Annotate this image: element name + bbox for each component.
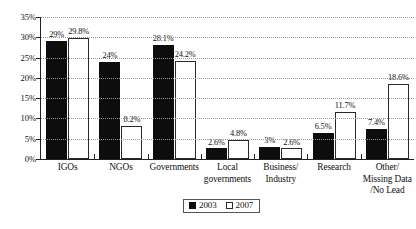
- y-axis-tick-mark: [36, 159, 40, 160]
- legend-item-2003: 2003: [189, 201, 217, 210]
- y-axis-tick-label: 20%: [21, 74, 36, 83]
- gridline: [41, 17, 414, 18]
- bar-value-label: 6.5%: [315, 123, 332, 131]
- x-axis-label-line: Missing Data: [349, 174, 416, 186]
- x-axis-label-line: Other/: [349, 162, 416, 174]
- x-axis-group-separator: [201, 154, 202, 159]
- bar-value-label: 29%: [49, 31, 64, 39]
- bar-2007-5: [281, 148, 302, 159]
- legend-label-2003: 2003: [199, 201, 217, 210]
- y-axis-tick-mark: [36, 139, 40, 140]
- x-axis-label-line: /No Lead: [349, 185, 416, 197]
- y-axis-tick-label: 30%: [21, 33, 36, 42]
- y-axis-tick-mark: [36, 118, 40, 119]
- x-axis-group-separator: [94, 154, 95, 159]
- chart-legend: 2003 2007: [183, 199, 260, 213]
- bar-value-label: 2.6%: [283, 139, 300, 147]
- legend-swatch-2003-icon: [189, 202, 196, 209]
- legend-item-2007: 2007: [226, 201, 254, 210]
- y-axis-tick-mark: [36, 98, 40, 99]
- bar-2003-6: [313, 133, 334, 159]
- y-axis-tick-label: 5%: [25, 134, 36, 143]
- gridline: [41, 118, 414, 119]
- bar-2007-7: [388, 84, 409, 159]
- grouped-bar-chart: 0%5%10%15%20%25%30%35% 29%29.8%24%8.2%28…: [0, 0, 416, 229]
- bar-value-label: 2.6%: [208, 139, 225, 147]
- bar-value-label: 4.8%: [230, 130, 247, 138]
- bar-value-label: 11.7%: [335, 102, 356, 110]
- y-axis-tick-label: 10%: [21, 114, 36, 123]
- y-axis-tick-mark: [36, 78, 40, 79]
- bar-value-label: 24%: [102, 52, 117, 60]
- bar-2007-3: [175, 61, 196, 159]
- x-axis-label-7: Other/Missing Data/No Lead: [349, 162, 416, 197]
- y-axis-tick-mark: [36, 58, 40, 59]
- y-axis-tick-label: 25%: [21, 53, 36, 62]
- gridline: [41, 78, 414, 79]
- bar-value-label: 7.4%: [368, 119, 385, 127]
- bar-2003-3: [153, 45, 174, 159]
- gridline: [41, 98, 414, 99]
- x-axis-group-separator: [361, 154, 362, 159]
- y-axis: 0%5%10%15%20%25%30%35%: [0, 0, 40, 160]
- legend-swatch-2007-icon: [226, 202, 233, 209]
- bar-value-label: 8.2%: [123, 116, 140, 124]
- x-axis-line: [40, 159, 414, 160]
- bar-2003-1: [46, 41, 67, 159]
- gridline: [41, 58, 414, 59]
- x-axis-group-separator: [307, 154, 308, 159]
- y-axis-tick-mark: [36, 17, 40, 18]
- y-axis-tick-label: 35%: [21, 13, 36, 22]
- x-axis-group-separator: [254, 154, 255, 159]
- bar-2003-7: [366, 129, 387, 159]
- plot-area: 29%29.8%24%8.2%28.1%24.2%2.6%4.8%3%2.6%6…: [41, 17, 414, 159]
- y-axis-tick-label: 15%: [21, 94, 36, 103]
- legend-label-2007: 2007: [236, 201, 254, 210]
- x-axis-label-line: Industry: [242, 174, 319, 186]
- bar-2003-2: [99, 62, 120, 159]
- bar-2003-5: [259, 147, 280, 159]
- x-axis-group-separator: [148, 154, 149, 159]
- y-axis-tick-mark: [36, 37, 40, 38]
- gridline: [41, 37, 414, 38]
- bar-value-label: 29.8%: [68, 28, 89, 36]
- bar-2007-2: [121, 126, 142, 159]
- bar-2003-4: [206, 148, 227, 159]
- gridline: [41, 139, 414, 140]
- bar-2007-4: [228, 140, 249, 159]
